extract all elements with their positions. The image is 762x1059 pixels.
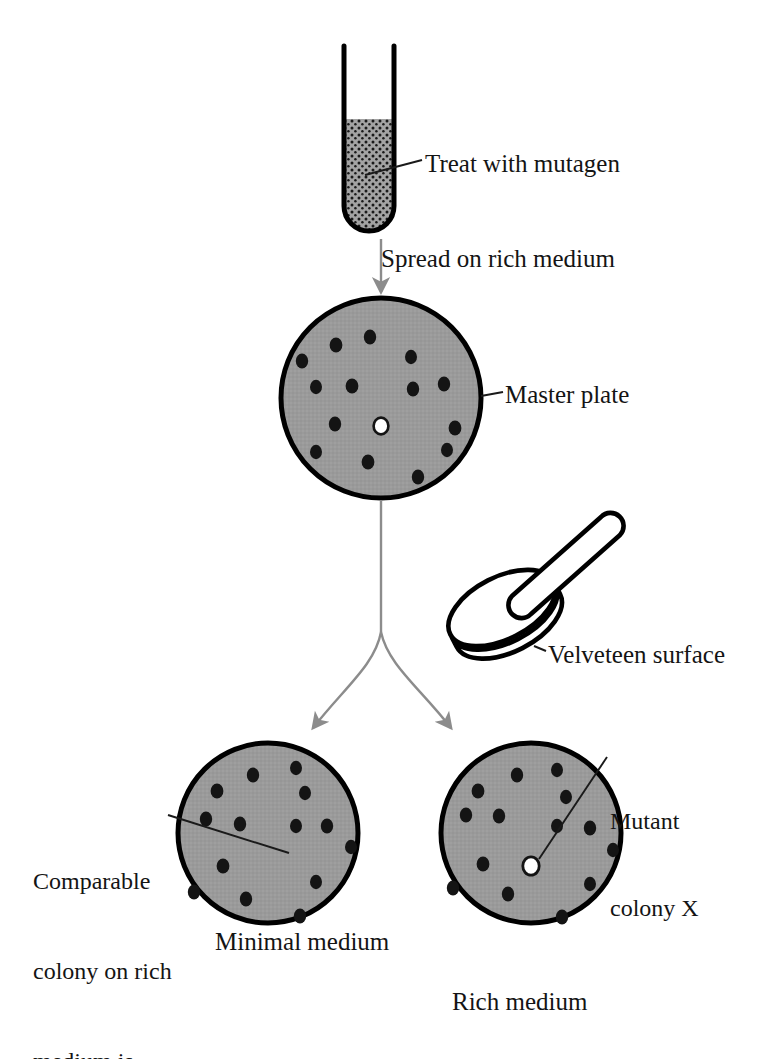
minimal-medium-plate — [178, 743, 358, 923]
label-comparable-colony-missing: Comparable colony on rich medium is miss… — [33, 806, 172, 1059]
master-plate-leader-line — [481, 392, 503, 396]
rich-plate-mutant-colony — [523, 857, 539, 875]
label-mutant-colony-line-1: Mutant — [610, 807, 699, 836]
label-velveteen-surface: Velveteen surface — [548, 641, 725, 670]
label-comparable-line-3: medium is — [33, 1046, 172, 1059]
label-mutant-colony-line-2: colony X — [610, 894, 699, 923]
master-plate — [281, 298, 481, 498]
replica-branch-arrows — [313, 500, 451, 728]
label-master-plate: Master plate — [505, 381, 629, 410]
label-spread-on-rich-medium: Spread on rich medium — [381, 245, 615, 274]
label-mutant-colony-x: Mutant colony X — [610, 748, 699, 953]
caption-rich-medium-master-plate: Rich medium master plate — [452, 928, 587, 1059]
master-plate-mutant-colony — [374, 418, 389, 435]
caption-minimal-medium: Minimal medium — [215, 928, 389, 957]
culture-tube — [340, 46, 400, 240]
label-comparable-line-1: Comparable — [33, 866, 172, 896]
label-treat-with-mutagen: Treat with mutagen — [425, 150, 620, 179]
rich-medium-master-plate — [441, 743, 621, 924]
velveteen-leader-line — [534, 646, 546, 651]
caption-rich-line-1: Rich medium — [452, 987, 587, 1017]
label-comparable-line-2: colony on rich — [33, 956, 172, 986]
